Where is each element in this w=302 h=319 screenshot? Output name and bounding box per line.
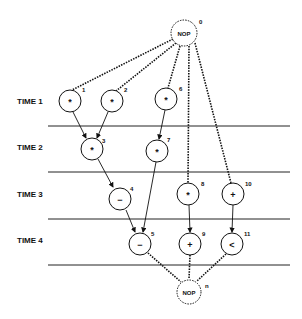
svg-text:3: 3 — [102, 138, 106, 144]
svg-text:7: 7 — [167, 137, 171, 143]
dataflow-edges — [73, 110, 233, 232]
time-label-3: TIME 3 — [17, 190, 43, 199]
op-node-11: < 11 — [221, 231, 251, 255]
svg-text:2: 2 — [124, 87, 128, 93]
svg-text:NOP: NOP — [182, 290, 195, 296]
time-label-2: TIME 2 — [17, 143, 43, 152]
svg-text:*: * — [68, 97, 72, 107]
source-dotted-edges — [72, 39, 231, 183]
svg-text:−: − — [117, 195, 122, 205]
svg-text:*: * — [110, 97, 114, 107]
svg-text:9: 9 — [202, 231, 206, 237]
svg-text:*: * — [90, 145, 94, 155]
svg-text:*: * — [155, 147, 159, 157]
svg-text:1: 1 — [82, 87, 86, 93]
svg-text:4: 4 — [130, 186, 134, 192]
svg-text:*: * — [164, 95, 168, 105]
svg-text:8: 8 — [201, 181, 205, 187]
svg-text:−: − — [137, 240, 142, 250]
svg-text:NOP: NOP — [177, 31, 190, 37]
svg-text:+: + — [187, 240, 192, 250]
op-node-9: + 9 — [179, 231, 206, 255]
op-node-5: − 5 — [129, 231, 155, 255]
op-node-3: * 3 — [81, 138, 106, 160]
op-node-1: * 1 — [59, 87, 86, 112]
time-label-1: TIME 1 — [17, 97, 43, 106]
nop-sink-node: NOP n — [177, 280, 209, 304]
svg-text:11: 11 — [244, 231, 251, 237]
op-node-4: − 4 — [109, 186, 134, 210]
nop-source-node: NOP 0 — [171, 19, 203, 46]
svg-text:10: 10 — [245, 181, 252, 187]
svg-text:n: n — [205, 283, 209, 289]
svg-text:+: + — [230, 190, 235, 200]
svg-text:6: 6 — [179, 86, 183, 92]
sink-dotted-edges — [148, 253, 226, 282]
svg-text:0: 0 — [199, 19, 203, 25]
svg-text:*: * — [186, 190, 190, 200]
op-node-10: + 10 — [222, 181, 252, 205]
op-node-6: * 6 — [155, 86, 183, 110]
svg-text:5: 5 — [151, 231, 155, 237]
op-node-7: * 7 — [146, 137, 171, 162]
scheduling-diagram: TIME 1 TIME 2 TIME 3 TIME 4 NOP 0 * 1 — [0, 0, 302, 319]
svg-text:<: < — [229, 240, 234, 250]
time-label-4: TIME 4 — [17, 236, 43, 245]
op-node-8: * 8 — [177, 181, 205, 205]
op-node-2: * 2 — [101, 87, 128, 112]
